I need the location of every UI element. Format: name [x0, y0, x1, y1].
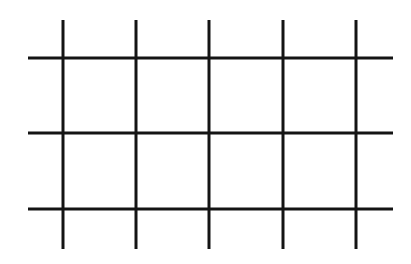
grid-diagram: [0, 0, 411, 264]
grid-lines-drawing: [0, 0, 411, 264]
